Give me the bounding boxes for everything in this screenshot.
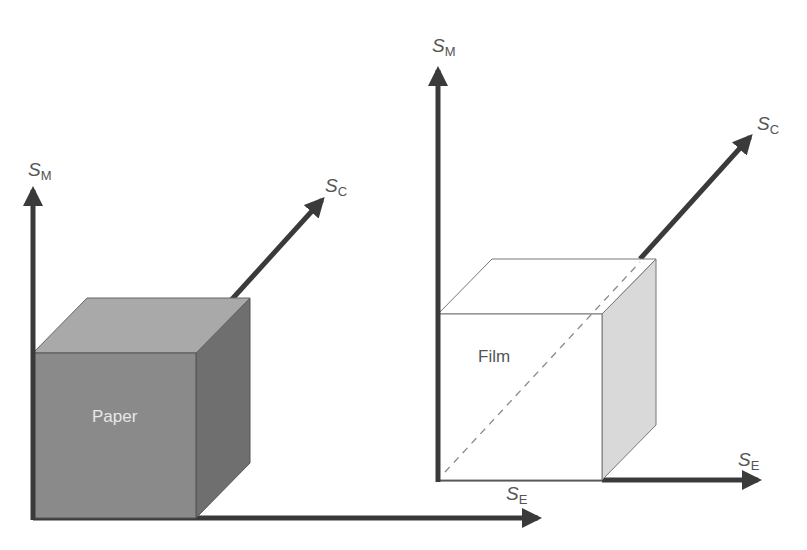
- left-sm-label: SM: [28, 159, 52, 183]
- film-diagram: Film SM SC SE: [432, 35, 779, 482]
- film-cube-front: [438, 314, 602, 480]
- diagram-canvas: Paper SM SC SE Film SM SC: [0, 0, 807, 550]
- right-sc-axis: [640, 137, 750, 259]
- right-sm-label: SM: [432, 35, 456, 59]
- paper-label: Paper: [92, 407, 138, 426]
- left-se-label: SE: [506, 483, 528, 507]
- film-label: Film: [478, 347, 510, 366]
- right-sc-label: SC: [757, 113, 779, 137]
- paper-cube-front: [33, 353, 196, 518]
- left-sc-label: SC: [325, 175, 347, 199]
- right-se-label: SE: [738, 449, 760, 473]
